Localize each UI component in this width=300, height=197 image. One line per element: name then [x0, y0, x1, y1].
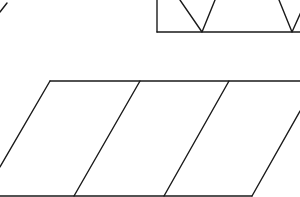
- slanted-edge-3: [164, 81, 229, 196]
- top-rectangle: [157, 0, 300, 32]
- slanted-edge-1: [0, 81, 50, 167]
- slanted-edge-2: [74, 81, 140, 196]
- slanted-edge-4: [252, 111, 300, 196]
- v-shape-2: [279, 0, 300, 32]
- v-shape-1: [180, 0, 215, 32]
- geometry-diagram: [0, 0, 300, 197]
- top-left-line-fragment: [0, 3, 7, 12]
- parallelogram-strip: [0, 81, 300, 196]
